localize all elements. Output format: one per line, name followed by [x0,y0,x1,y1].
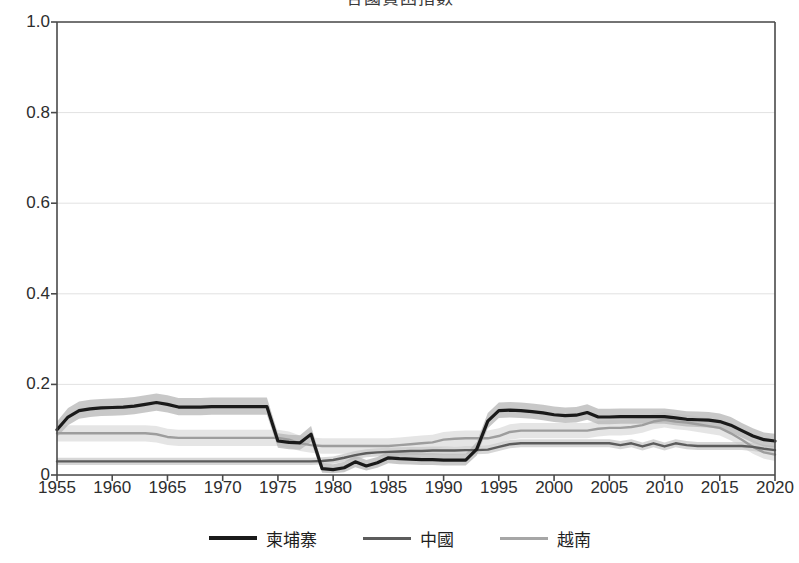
legend-line-swatch [363,537,411,540]
x-tick-label: 2015 [701,478,739,498]
plot-area [0,0,799,500]
legend-label: 柬埔寨 [266,526,317,551]
y-tick-label: 0.6 [6,193,50,213]
legend-item[interactable]: 越南 [500,526,591,551]
x-tick-label: 1975 [259,478,297,498]
x-tick-label: 2000 [535,478,573,498]
plot-svg [0,0,799,500]
x-tick-label: 1985 [369,478,407,498]
legend-item[interactable]: 中國 [363,526,454,551]
chart-legend: 柬埔寨中國越南 [0,518,799,558]
legend-item[interactable]: 柬埔寨 [209,526,317,551]
x-tick-label: 2020 [756,478,794,498]
legend-label: 越南 [557,526,591,551]
x-tick-label: 1965 [149,478,187,498]
chart-figure: 各國貧困指數 00.20.40.60.81.0 1955196019651970… [0,0,799,563]
y-axis-tick-labels: 00.20.40.60.81.0 [0,0,50,500]
x-tick-label: 1955 [38,478,76,498]
y-tick-label: 1.0 [6,12,50,32]
y-tick-label: 0.8 [6,103,50,123]
x-tick-label: 1990 [425,478,463,498]
x-tick-label: 2010 [646,478,684,498]
y-tick-label: 0.2 [6,374,50,394]
legend-line-swatch [500,537,548,540]
x-axis-tick-labels: 1955196019651970197519801985199019952000… [0,478,799,508]
x-tick-label: 1995 [480,478,518,498]
x-tick-label: 2005 [590,478,628,498]
x-tick-label: 1980 [314,478,352,498]
y-tick-label: 0.4 [6,284,50,304]
x-tick-label: 1970 [204,478,242,498]
x-tick-label: 1960 [93,478,131,498]
legend-label: 中國 [420,526,454,551]
legend-line-swatch [209,536,257,540]
